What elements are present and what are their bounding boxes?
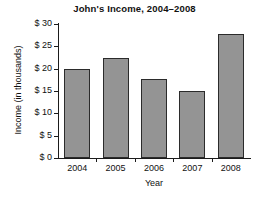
y-tick-label: $ 25 xyxy=(34,41,52,50)
y-tick-label: $ 0 xyxy=(39,153,52,162)
y-tick-label: $ 10 xyxy=(34,108,52,117)
y-tick-label: $ 20 xyxy=(34,64,52,73)
plot-area xyxy=(58,24,250,158)
x-tick-label: 2008 xyxy=(212,164,250,173)
x-tick-mark xyxy=(96,158,97,162)
bar-chart: John's Income, 2004–2008 Income (in thou… xyxy=(0,0,269,200)
x-tick-mark xyxy=(135,158,136,162)
bar-2005 xyxy=(103,58,129,159)
y-tick-label: $ 15 xyxy=(34,86,52,95)
y-tick-mark xyxy=(54,158,58,159)
x-tick-label: 2006 xyxy=(135,164,173,173)
bar-2006 xyxy=(141,79,167,159)
x-tick-mark xyxy=(212,158,213,162)
x-tick-mark xyxy=(173,158,174,162)
y-axis-title-wrap: Income (in thousands) xyxy=(9,20,27,160)
y-tick-label: $ 30 xyxy=(34,19,52,28)
x-tick-label: 2005 xyxy=(96,164,134,173)
bar-2007 xyxy=(179,91,205,158)
y-axis-title: Income (in thousands) xyxy=(13,45,23,134)
x-axis-line xyxy=(57,158,251,159)
y-tick-label: $ 5 xyxy=(39,131,52,140)
x-axis-title: Year xyxy=(58,178,250,188)
x-tick-label: 2007 xyxy=(173,164,211,173)
chart-title: John's Income, 2004–2008 xyxy=(0,3,269,14)
bar-2008 xyxy=(218,34,244,158)
x-tick-label: 2004 xyxy=(58,164,96,173)
bar-2004 xyxy=(64,69,90,158)
